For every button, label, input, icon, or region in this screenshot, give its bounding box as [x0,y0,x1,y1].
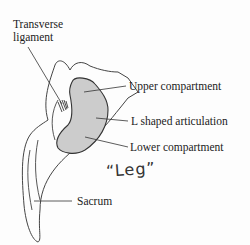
l-shaped-articulation-region [57,78,108,153]
label-l-shaped-articulation: L shaped articulation [131,115,228,128]
sacroiliac-joint-diagram: Transverse ligament Upper compartment L … [0,0,250,245]
label-transverse-ligament-2: ligament [13,31,53,44]
label-sacrum: Sacrum [77,195,112,208]
label-transverse-ligament-1: Transverse [13,18,63,31]
label-upper-compartment: Upper compartment [129,80,221,93]
handwritten-note: “Leg” [105,158,156,180]
label-lower-compartment: Lower compartment [130,141,224,154]
